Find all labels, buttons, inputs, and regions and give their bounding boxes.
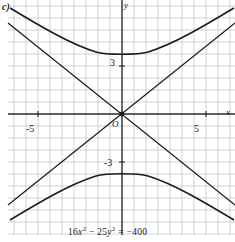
equation-caption: 16x2 − 25y2 = −400 — [68, 226, 147, 238]
y-axis-label: y — [124, 1, 128, 10]
y-tick-label-3: 3 — [110, 58, 115, 68]
part-label: c) — [2, 2, 10, 12]
equation-term-a-exp: 2 — [83, 225, 87, 232]
equation-rhs: −400 — [127, 227, 148, 237]
y-tick-label-neg3: -3 — [104, 158, 112, 168]
x-axis-label: x — [226, 108, 230, 117]
equation-term-b-coeff: 25 — [97, 227, 107, 237]
origin-point — [120, 112, 125, 117]
equation-operator: − — [89, 227, 95, 237]
x-tick-label-5: 5 — [194, 124, 199, 134]
equation-equals: = — [118, 227, 124, 237]
equation-term-b-exp: 2 — [112, 225, 116, 232]
origin-label: O — [112, 120, 119, 129]
equation-term-a-coeff: 16 — [68, 227, 78, 237]
figure-container: c) y x 3 -3 -5 5 O 16x2 − 25y2 = −400 — [0, 0, 235, 242]
x-tick-label-neg5: -5 — [26, 124, 34, 134]
